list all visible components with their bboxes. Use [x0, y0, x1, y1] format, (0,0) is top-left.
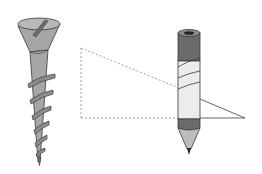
pencil-icon — [178, 30, 200, 156]
paper-triangle — [200, 99, 245, 118]
diagram-svg — [0, 0, 262, 174]
screw-icon — [18, 18, 60, 166]
dashed-guide-lines — [81, 48, 179, 118]
helix-diagram — [0, 0, 262, 174]
